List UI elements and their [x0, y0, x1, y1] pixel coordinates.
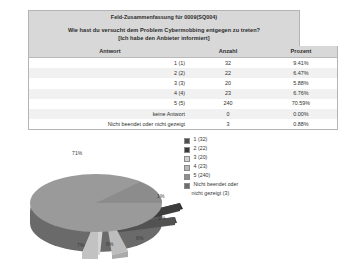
- cell-percent: 9.41%: [265, 58, 338, 69]
- table-row: 1 (1) 32 9.41%: [29, 58, 338, 69]
- pie-top-face: [30, 174, 162, 232]
- cell-answer: 1 (1): [29, 58, 192, 69]
- cell-count: 0: [191, 109, 265, 119]
- table-row: 5 (5) 240 70.59%: [29, 99, 338, 109]
- panel-header: Feld-Zusammenfassung für 0009(SQ004): [28, 10, 300, 24]
- legend-swatch-icon: [184, 165, 190, 171]
- cell-percent: 0.00%: [265, 109, 338, 119]
- pie-percent-label: 71%: [72, 150, 82, 156]
- chart-legend: 1 (32) 2 (22) 3 (20) 4 (23) 5 (240) Nich…: [184, 136, 310, 199]
- results-table: Antwort Anzahl Prozent 1 (1) 32 9.41% 2 …: [28, 46, 338, 130]
- legend-item: 3 (20): [184, 154, 310, 162]
- field-summary-panel: Feld-Zusammenfassung für 0009(SQ004) Wie…: [28, 10, 300, 130]
- pie-percent-label: 6%: [136, 235, 143, 241]
- table-header: Antwort Anzahl Prozent: [29, 46, 338, 58]
- legend-item: 2 (22): [184, 145, 310, 153]
- table-row: 2 (2) 22 6.47%: [29, 68, 338, 78]
- cell-percent: 6.76%: [265, 89, 338, 99]
- pie-percent-label: 7%: [77, 242, 84, 248]
- pie-percent-label: 1%: [157, 193, 164, 199]
- cell-answer: 2 (2): [29, 68, 192, 78]
- legend-swatch-icon: [184, 174, 190, 180]
- cell-answer: 4 (4): [29, 89, 192, 99]
- column-header-answer: Antwort: [29, 46, 192, 58]
- legend-swatch-spacer: [184, 192, 188, 196]
- cell-count: 3: [191, 119, 265, 130]
- legend-item-label: 3 (20): [194, 154, 208, 161]
- cell-answer: Nicht beendet oder nicht gezeigt: [29, 119, 192, 130]
- legend-swatch-icon: [184, 156, 190, 162]
- legend-item-label: 5 (240): [194, 172, 211, 179]
- legend-item-label: nicht gezeigt (3): [192, 190, 230, 197]
- question-text: Wie hast du versucht dem Problem Cybermo…: [35, 26, 293, 34]
- legend-item-label: Nicht beendet oder: [194, 181, 239, 188]
- pie-percent-label: 6%: [106, 241, 113, 247]
- legend-item: 1 (32): [184, 136, 310, 144]
- cell-percent: 70.59%: [265, 99, 338, 109]
- legend-swatch-icon: [184, 183, 190, 189]
- cell-percent: 0.88%: [265, 119, 338, 130]
- table-body: 1 (1) 32 9.41% 2 (2) 22 6.47% 3 (3) 20 5…: [29, 58, 338, 130]
- cell-percent: 5.88%: [265, 78, 338, 88]
- legend-item: Nicht beendet oder: [184, 181, 310, 189]
- page-title: Feld-Zusammenfassung für 0009(SQ004): [31, 13, 297, 21]
- table-row: Nicht beendet oder nicht gezeigt 3 0.88%: [29, 119, 338, 130]
- cell-count: 23: [191, 89, 265, 99]
- legend-item-continuation: nicht gezeigt (3): [184, 190, 310, 197]
- cell-count: 240: [191, 99, 265, 109]
- cell-count: 32: [191, 58, 265, 69]
- column-header-count: Anzahl: [191, 46, 265, 58]
- chart-area: 71% 1% 9% 6% 6% 7% 1 (32) 2 (22) 3 (20) …: [20, 133, 310, 261]
- cell-answer: keine Antwort: [29, 109, 192, 119]
- table-header-row: Antwort Anzahl Prozent: [29, 46, 338, 58]
- legend-item: 4 (23): [184, 163, 310, 171]
- question-subquestion: [Ich habe den Anbieter informiert]: [35, 34, 293, 42]
- legend-item-label: 2 (22): [194, 145, 208, 152]
- legend-item: 5 (240): [184, 172, 310, 180]
- cell-count: 22: [191, 68, 265, 78]
- cell-answer: 3 (3): [29, 78, 192, 88]
- pie-percent-label: 9%: [158, 215, 165, 221]
- question-block: Wie hast du versucht dem Problem Cybermo…: [28, 24, 300, 46]
- legend-swatch-icon: [184, 147, 190, 153]
- legend-item-label: 4 (23): [194, 163, 208, 170]
- legend-swatch-icon: [184, 138, 190, 144]
- table-row: 4 (4) 23 6.76%: [29, 89, 338, 99]
- cell-answer: 5 (5): [29, 99, 192, 109]
- pie-chart: 71% 1% 9% 6% 6% 7%: [20, 133, 185, 259]
- table-row: 3 (3) 20 5.88%: [29, 78, 338, 88]
- column-header-percent: Prozent: [265, 46, 338, 58]
- legend-item-label: 1 (32): [194, 136, 208, 143]
- cell-percent: 6.47%: [265, 68, 338, 78]
- cell-count: 20: [191, 78, 265, 88]
- table-row: keine Antwort 0 0.00%: [29, 109, 338, 119]
